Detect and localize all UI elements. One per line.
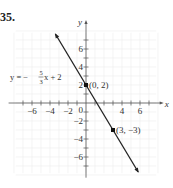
y-axis-label: y [77, 17, 82, 27]
x-axis-arrow [160, 101, 164, 104]
coordinate-plane: xy −6−4−246642−2−4−60 (0, 2)(3, −3) y = … [0, 0, 173, 188]
origin-label: 0 [79, 105, 84, 115]
data-point-label: (0, 2) [89, 80, 109, 90]
y-axis-arrow [84, 20, 87, 24]
y-tick-label: 2 [79, 80, 84, 90]
y-tick-label: −6 [73, 152, 83, 162]
equation-label-prefix: y = − [10, 72, 28, 82]
annotations: y = −53x + 2 [10, 69, 62, 85]
line-arrowhead [55, 33, 59, 38]
equation-fraction-numerator: 5 [39, 69, 42, 76]
equation-fraction-denominator: 3 [39, 78, 42, 85]
y-tick-label: 6 [79, 44, 84, 54]
line-arrowhead [134, 168, 138, 173]
x-tick-label: −2 [63, 106, 73, 116]
y-tick-label: −2 [73, 116, 83, 126]
x-tick-label: −6 [27, 106, 37, 116]
data-point [111, 128, 115, 132]
x-tick-label: 6 [138, 106, 143, 116]
points: (0, 2)(3, −3) [84, 80, 141, 135]
x-tick-label: 4 [120, 106, 125, 116]
x-axis-label: x [164, 99, 169, 109]
axes: xy [9, 17, 169, 178]
y-tick-label: 4 [79, 62, 84, 72]
data-point [84, 83, 88, 87]
y-tick-label: −4 [73, 134, 83, 144]
x-tick-label: −4 [45, 106, 55, 116]
data-point-label: (3, −3) [116, 125, 141, 135]
equation-label-suffix: x + 2 [44, 72, 62, 82]
